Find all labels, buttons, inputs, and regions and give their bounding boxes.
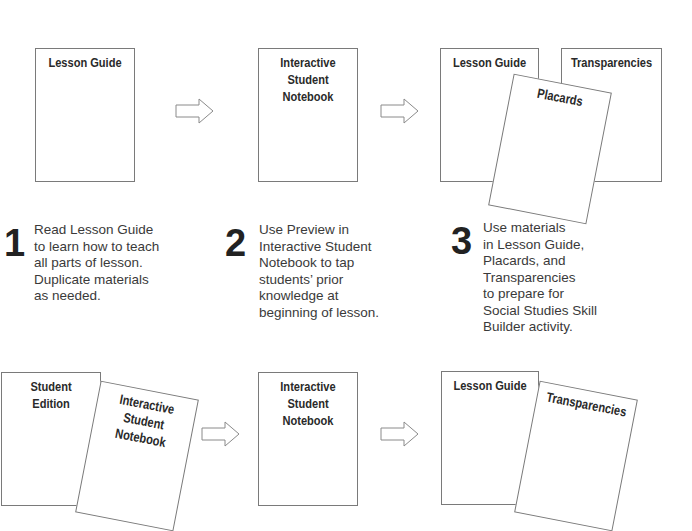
arrow-right-icon [380, 421, 420, 447]
interactive-student-notebook-card: Interactive Student Notebook [258, 48, 358, 182]
step-number: 3 [451, 222, 472, 260]
step-description: Use materials in Lesson Guide, Placards,… [483, 220, 597, 336]
arrow-right-icon [201, 421, 241, 447]
step-description: Use Preview in Interactive Student Noteb… [259, 222, 379, 321]
card-title: Lesson Guide [451, 377, 530, 394]
lesson-guide-card: Lesson Guide [35, 48, 135, 182]
card-title: Interactive Student Notebook [268, 378, 348, 429]
card-title: Transparencies [545, 388, 627, 420]
card-title: Transparencies [571, 54, 652, 71]
arrow-right-icon [175, 98, 215, 124]
step-description: Read Lesson Guide to learn how to teach … [34, 222, 159, 305]
card-title: Lesson Guide [45, 54, 125, 71]
step-number: 1 [4, 224, 25, 262]
interactive-student-notebook-card: Interactive Student Notebook [258, 372, 358, 506]
arrow-right-icon [380, 98, 420, 124]
card-title: Interactive Student Notebook [268, 54, 348, 105]
card-title: Lesson Guide [450, 54, 530, 71]
card-title: Student Edition [11, 378, 91, 412]
card-title: Interactive Student Notebook [99, 388, 188, 453]
step-number: 2 [225, 224, 246, 262]
